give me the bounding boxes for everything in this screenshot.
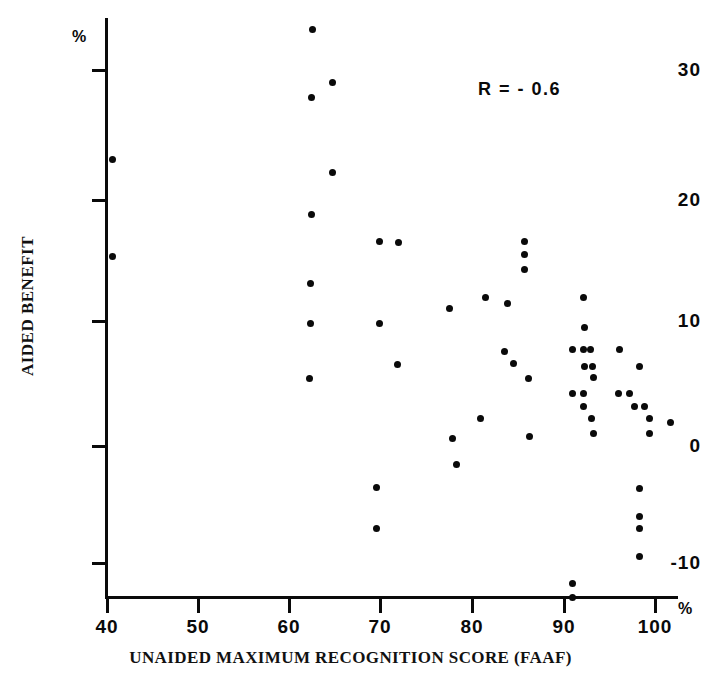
x-tick-label-40: 40 <box>77 616 137 638</box>
data-point <box>667 419 674 426</box>
scatter-plot-figure: 30 20 10 0 -10 40 50 60 70 80 90 100 % %… <box>0 0 701 694</box>
data-point <box>525 375 532 382</box>
data-point <box>395 239 402 246</box>
x-axis-title: UNAIDED MAXIMUM RECOGNITION SCORE (FAAF) <box>0 648 701 668</box>
data-point <box>636 363 643 370</box>
data-point <box>616 346 623 353</box>
data-point <box>309 26 316 33</box>
y-tick-0 <box>92 445 106 448</box>
data-point <box>580 403 587 410</box>
data-point <box>636 553 643 560</box>
x-tick-label-70: 70 <box>350 616 410 638</box>
data-point <box>501 348 508 355</box>
data-point <box>482 294 489 301</box>
x-tick-70 <box>379 599 382 613</box>
data-point <box>521 251 528 258</box>
data-point <box>581 363 588 370</box>
y-tick-label-30: 30 <box>615 59 701 81</box>
data-point <box>394 361 401 368</box>
y-tick-label-0: 0 <box>615 435 701 457</box>
y-tick-label-neg10: -10 <box>615 552 701 574</box>
data-point <box>587 346 594 353</box>
data-point <box>636 525 643 532</box>
data-point <box>307 320 314 327</box>
y-tick-neg10 <box>92 562 106 565</box>
data-point <box>308 211 315 218</box>
y-tick-30 <box>92 69 106 72</box>
x-tick-50 <box>197 599 200 613</box>
plot-area: 30 20 10 0 -10 40 50 60 70 80 90 100 % %… <box>0 0 701 694</box>
y-tick-label-20: 20 <box>615 189 701 211</box>
y-axis-unit-percent: % <box>72 28 86 46</box>
data-point <box>306 375 313 382</box>
x-tick-80 <box>471 599 474 613</box>
data-point <box>631 403 638 410</box>
x-tick-label-100: 100 <box>625 616 685 638</box>
data-point <box>376 238 383 245</box>
data-point <box>504 300 511 307</box>
x-tick-label-90: 90 <box>534 616 594 638</box>
data-point <box>636 485 643 492</box>
x-axis-line <box>105 596 678 599</box>
data-point <box>308 94 315 101</box>
correlation-annotation: R = - 0.6 <box>478 79 561 100</box>
x-tick-label-80: 80 <box>442 616 502 638</box>
data-point <box>646 415 653 422</box>
y-tick-label-10: 10 <box>615 310 701 332</box>
data-point <box>453 461 460 468</box>
data-point <box>109 156 116 163</box>
data-point <box>636 513 643 520</box>
data-point <box>569 594 576 601</box>
y-tick-10 <box>92 320 106 323</box>
data-point <box>109 253 116 260</box>
data-point <box>641 403 648 410</box>
data-point <box>589 363 596 370</box>
data-point <box>376 320 383 327</box>
x-tick-60 <box>288 599 291 613</box>
data-point <box>307 280 314 287</box>
data-point <box>590 374 597 381</box>
data-point <box>569 390 576 397</box>
x-tick-100 <box>654 599 657 613</box>
data-point <box>588 415 595 422</box>
x-tick-40 <box>106 599 109 613</box>
data-point <box>580 390 587 397</box>
x-tick-label-60: 60 <box>259 616 319 638</box>
data-point <box>329 79 336 86</box>
data-point <box>449 435 456 442</box>
x-axis-unit-percent: % <box>678 600 692 618</box>
x-tick-label-50: 50 <box>168 616 228 638</box>
data-point <box>581 324 588 331</box>
data-point <box>626 390 633 397</box>
data-point <box>526 433 533 440</box>
data-point <box>373 484 380 491</box>
data-point <box>615 390 622 397</box>
data-point <box>569 580 576 587</box>
data-point <box>590 430 597 437</box>
data-point <box>373 525 380 532</box>
data-point <box>446 305 453 312</box>
y-axis-line <box>105 18 108 598</box>
data-point <box>569 346 576 353</box>
data-point <box>580 294 587 301</box>
data-point <box>329 169 336 176</box>
data-point <box>521 238 528 245</box>
data-point <box>510 360 517 367</box>
data-point <box>521 266 528 273</box>
x-tick-90 <box>563 599 566 613</box>
data-point <box>477 415 484 422</box>
y-tick-20 <box>92 199 106 202</box>
y-axis-title: AIDED BENEFIT <box>18 186 38 426</box>
